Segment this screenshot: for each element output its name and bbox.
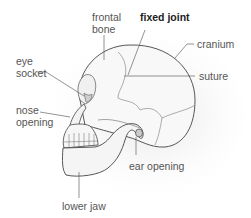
label-eye-socket-line2: socket: [16, 67, 46, 79]
label-frontal-bone-line1: frontal: [92, 11, 121, 23]
label-nose-opening-line1: nose: [16, 104, 39, 116]
label-ear-opening: ear opening: [129, 160, 184, 172]
label-nose-opening-line2: opening: [16, 116, 53, 128]
label-cranium: cranium: [197, 38, 234, 50]
label-frontal-bone-line2: bone: [92, 23, 115, 35]
label-suture: suture: [199, 70, 228, 82]
label-eye-socket-line1: eye: [16, 55, 33, 67]
label-fixed-joint: fixed joint: [140, 11, 190, 23]
label-lower-jaw: lower jaw: [62, 200, 106, 212]
